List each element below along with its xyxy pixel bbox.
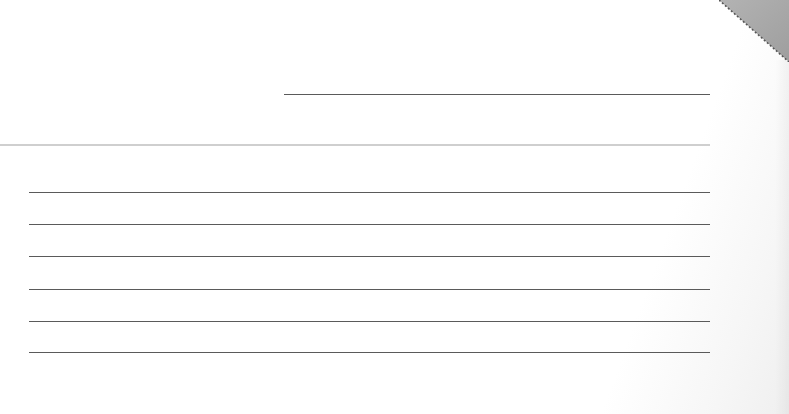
ruled-write-line bbox=[29, 321, 710, 322]
ruled-write-line bbox=[29, 256, 710, 257]
ruled-write-line bbox=[29, 224, 710, 225]
folded-corner-icon bbox=[719, 0, 789, 62]
section-divider bbox=[0, 144, 710, 146]
blank-form-page bbox=[0, 0, 789, 414]
ruled-write-line bbox=[29, 289, 710, 290]
header-write-line bbox=[284, 94, 710, 95]
page-edge-shadow bbox=[775, 60, 789, 414]
ruled-write-line bbox=[29, 352, 710, 353]
ruled-write-line bbox=[29, 192, 710, 193]
